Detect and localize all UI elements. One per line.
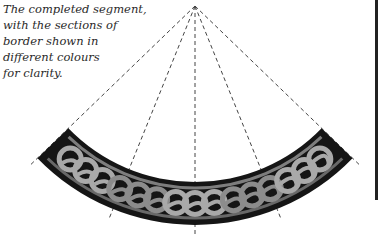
dashed-guide-line <box>195 6 361 166</box>
page-edge-bar <box>375 0 378 200</box>
segment-diagram <box>0 0 379 235</box>
dashed-guide-line <box>29 6 195 166</box>
